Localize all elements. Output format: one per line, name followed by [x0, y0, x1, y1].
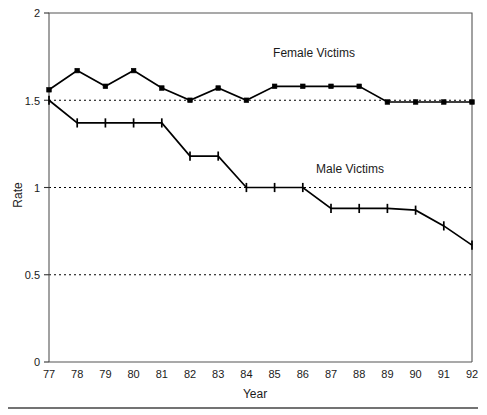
datapoint-female-victims-77	[47, 87, 52, 92]
xtick-label-88: 88	[353, 368, 365, 380]
xtick-label-92: 92	[466, 368, 478, 380]
y-axis-tick-labels: 2 1.5 1 0.5 0	[25, 7, 40, 368]
xtick-label-79: 79	[99, 368, 111, 380]
datapoint-female-victims-81	[160, 86, 165, 91]
xtick-label-86: 86	[297, 368, 309, 380]
xtick-label-78: 78	[71, 368, 83, 380]
xtick-label-90: 90	[409, 368, 421, 380]
datapoint-female-victims-91	[442, 100, 447, 105]
annotation-male-victims: Male Victims	[316, 162, 384, 176]
xtick-label-87: 87	[325, 368, 337, 380]
datapoint-female-victims-78	[75, 68, 80, 73]
y-axis-ticks	[44, 13, 49, 362]
datapoint-female-victims-89	[385, 100, 390, 105]
xtick-label-91: 91	[438, 368, 450, 380]
data-series-layer	[47, 68, 475, 249]
datapoint-female-victims-88	[357, 84, 362, 89]
datapoint-female-victims-87	[329, 84, 334, 89]
xtick-label-89: 89	[381, 368, 393, 380]
chart-figure: 2 1.5 1 0.5 0 77 78 79 80 81 82 83 84 85…	[0, 0, 487, 415]
series-male-victims	[49, 96, 472, 250]
ytick-label-2: 2	[34, 7, 40, 19]
datapoint-female-victims-80	[131, 68, 136, 73]
xtick-label-80: 80	[127, 368, 139, 380]
line-chart-svg: 2 1.5 1 0.5 0 77 78 79 80 81 82 83 84 85…	[0, 0, 487, 415]
datapoint-female-victims-90	[413, 100, 418, 105]
xtick-label-84: 84	[240, 368, 252, 380]
x-axis-tick-labels: 77 78 79 80 81 82 83 84 85 86 87 88 89 9…	[43, 368, 478, 380]
datapoint-female-victims-79	[103, 84, 108, 89]
datapoint-female-victims-82	[188, 98, 193, 103]
xtick-label-81: 81	[156, 368, 168, 380]
series-line-male-victims	[49, 100, 472, 245]
ytick-label-0: 0	[34, 356, 40, 368]
x-axis-title: Year	[243, 387, 267, 401]
datapoint-female-victims-84	[244, 98, 249, 103]
ytick-label-1-5: 1.5	[25, 95, 40, 107]
y-axis-title: Rate	[11, 182, 25, 208]
datapoint-female-victims-85	[272, 84, 277, 89]
xtick-label-83: 83	[212, 368, 224, 380]
xtick-label-77: 77	[43, 368, 55, 380]
ytick-label-1: 1	[34, 182, 40, 194]
ytick-label-0-5: 0.5	[25, 269, 40, 281]
xtick-label-85: 85	[268, 368, 280, 380]
datapoint-female-victims-92	[470, 100, 475, 105]
annotation-female-victims: Female Victims	[273, 46, 355, 60]
xtick-label-82: 82	[184, 368, 196, 380]
datapoint-female-victims-83	[216, 86, 221, 91]
series-line-female-victims	[49, 71, 472, 102]
datapoint-female-victims-86	[301, 84, 306, 89]
series-annotations: Female Victims Male Victims	[273, 46, 384, 176]
series-female-victims	[47, 68, 475, 104]
